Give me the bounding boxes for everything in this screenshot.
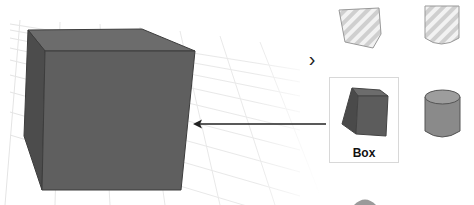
cube-object[interactable] xyxy=(0,0,240,205)
shape-cylinder[interactable] xyxy=(422,87,464,143)
shape-cylinder-textured[interactable] xyxy=(421,4,463,48)
shape-card-box[interactable]: Box xyxy=(329,77,399,163)
box-shape-icon xyxy=(338,84,390,142)
3d-viewport[interactable] xyxy=(0,0,320,205)
chevron-right-icon[interactable]: › xyxy=(305,48,319,70)
shape-sphere[interactable] xyxy=(352,188,378,205)
shape-box-textured[interactable] xyxy=(337,4,385,52)
box-label: Box xyxy=(330,146,398,160)
